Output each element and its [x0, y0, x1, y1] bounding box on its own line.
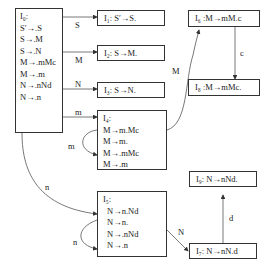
state-label: I₇: N→nN.d — [190, 244, 256, 258]
state-title: I₅: — [103, 194, 166, 206]
state-label: I₃: S→N. — [98, 83, 164, 97]
state-I0: I₀: S′→.S S→.M S→.N M→.mMc M→.m N→.nNd N… — [15, 8, 63, 133]
edge-label-n: n — [45, 182, 49, 192]
state-I3: I₃: S→N. — [97, 82, 165, 98]
lr-item: N→n.Nd — [103, 206, 166, 218]
edge-I0-I5 — [22, 133, 97, 214]
state-label: I₈ :M→mMc. — [189, 80, 259, 94]
edge-label-d: d — [229, 213, 233, 223]
lr-item: N→.n — [103, 240, 166, 252]
state-I2: I₂: S→M. — [97, 45, 165, 61]
lr-item: S→.M — [20, 34, 62, 46]
state-label: I₂: S→M. — [98, 46, 164, 60]
edge-label-M-I4-I6: M — [172, 66, 180, 76]
state-I6: I₆ :M→mM.c — [188, 10, 260, 27]
lr-item: N→n. — [103, 217, 166, 229]
edge-label-m: m — [75, 107, 82, 117]
edge-label-N-I5-I7: N — [178, 227, 184, 237]
lr-item: N→.n — [20, 92, 62, 104]
lr-item: M→.mMc — [103, 148, 166, 160]
state-title: I₄: — [103, 113, 166, 125]
state-I5: I₅: N→n.Nd N→n. N→.nNd N→.n — [97, 191, 167, 257]
edge-label-N: N — [75, 79, 81, 89]
edge-label-c: c — [240, 48, 244, 58]
lr-item: S→.N — [20, 46, 62, 58]
edge-I4-I4 — [83, 130, 97, 155]
lr-item: M→.m — [103, 159, 166, 171]
state-label: I₉: N→nNd. — [190, 172, 256, 186]
state-I7: I₇: N→nN.d — [189, 243, 257, 259]
edge-I5-I5 — [81, 220, 97, 249]
edge-label-m-loop: m — [68, 141, 75, 151]
state-label: I₁: S′→S. — [98, 11, 164, 25]
lr-item: N→.nNd — [20, 80, 62, 92]
lr-item: S′→.S — [20, 23, 62, 35]
edge-label-M: M — [75, 55, 83, 65]
lr-item: N→.nNd — [103, 229, 166, 241]
lr-item: M→.m — [20, 69, 62, 81]
edge-label-n-loop: n — [73, 237, 77, 247]
lr-item: M→m. — [103, 136, 166, 148]
state-label: I₆ :M→mM.c — [189, 11, 259, 25]
state-I8: I₈ :M→mMc. — [188, 79, 260, 96]
state-I1: I₁: S′→S. — [97, 10, 165, 26]
lr-item: M→m.Mc — [103, 125, 166, 137]
edge-I5-I7 — [165, 228, 188, 251]
lr-item: M→.mMc — [20, 57, 62, 69]
state-I9: I₉: N→nNd. — [189, 171, 257, 187]
state-title: I₀: — [20, 11, 62, 23]
state-I4: I₄: M→m.Mc M→m. M→.mMc M→.m — [97, 110, 167, 170]
edge-label-S: S — [75, 20, 80, 30]
